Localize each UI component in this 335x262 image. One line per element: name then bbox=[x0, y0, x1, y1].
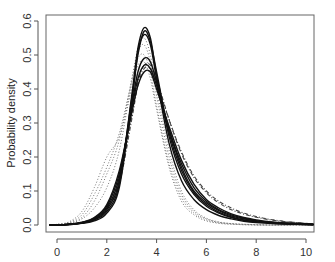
density-curve-dotted-2 bbox=[50, 54, 314, 225]
density-curves bbox=[50, 27, 314, 225]
density-curve-solid-6 bbox=[50, 34, 314, 225]
x-tick-label: 0 bbox=[54, 246, 60, 258]
density-curve-dashed-1 bbox=[50, 63, 314, 225]
density-curve-solid-4 bbox=[50, 65, 314, 226]
density-curve-solid-3 bbox=[50, 58, 314, 225]
x-tick-label: 8 bbox=[253, 246, 259, 258]
y-tick-label: 0.5 bbox=[21, 47, 33, 62]
y-tick-label: 0.3 bbox=[21, 115, 33, 130]
x-tick-label: 6 bbox=[203, 246, 209, 258]
density-chart: 0.00.10.20.30.40.50.6 0246810 Probabilit… bbox=[0, 0, 335, 262]
plot-frame bbox=[46, 15, 314, 232]
y-axis-title: Probability density bbox=[5, 78, 17, 168]
y-tick-label: 0.1 bbox=[21, 183, 33, 198]
density-curve-dotted-1 bbox=[50, 61, 314, 225]
y-tick-label: 0.4 bbox=[21, 81, 33, 96]
y-axis: 0.00.10.20.30.40.50.6 bbox=[21, 13, 38, 232]
x-tick-label: 2 bbox=[104, 246, 110, 258]
x-axis: 0246810 bbox=[54, 239, 312, 258]
y-tick-label: 0.2 bbox=[21, 149, 33, 164]
y-tick-label: 0.0 bbox=[21, 217, 33, 232]
density-curve-dotted-4 bbox=[50, 38, 314, 225]
x-tick-label: 10 bbox=[300, 246, 312, 258]
density-curve-solid-2 bbox=[50, 31, 314, 225]
x-tick-label: 4 bbox=[154, 246, 160, 258]
density-curve-solid-1 bbox=[50, 27, 314, 225]
y-tick-label: 0.6 bbox=[21, 13, 33, 28]
density-curve-dotted-3 bbox=[50, 44, 314, 225]
